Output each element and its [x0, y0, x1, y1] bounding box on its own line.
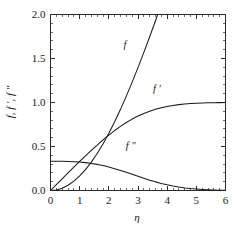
x-tick-label: 1	[77, 194, 83, 206]
x-tick-label: 6	[223, 194, 229, 206]
x-tick-label: 5	[194, 194, 200, 206]
x-axis-tick-labels: 0123456	[48, 194, 229, 206]
plot-canvas: 0123456 0.00.51.01.52.0 ff ′f ″ η f, f ′…	[0, 0, 238, 231]
data-curves	[51, 0, 226, 191]
curve-label: f ″	[126, 140, 137, 151]
x-tick-label: 2	[106, 194, 112, 206]
y-tick-label: 1.5	[32, 52, 46, 64]
x-tick-label: 0	[48, 194, 54, 206]
x-tick-label: 3	[135, 194, 141, 206]
y-axis-tick-labels: 0.00.51.01.52.0	[32, 8, 46, 196]
curve-fprime	[51, 103, 226, 191]
y-tick-label: 2.0	[32, 8, 46, 20]
blasius-figure: 0123456 0.00.51.01.52.0 ff ′f ″ η f, f ′…	[0, 0, 238, 231]
x-tick-label: 4	[164, 194, 170, 206]
y-tick-label: 1.0	[32, 96, 46, 108]
y-axis-label: f, f ′, f ″	[4, 85, 16, 118]
x-axis-label: η	[134, 211, 139, 223]
y-tick-label: 0.0	[32, 184, 46, 196]
curve-fprimeprime	[51, 161, 226, 190]
curve-label: f	[123, 39, 128, 50]
curve-label: f ′	[153, 83, 162, 94]
y-tick-label: 0.5	[32, 140, 46, 152]
